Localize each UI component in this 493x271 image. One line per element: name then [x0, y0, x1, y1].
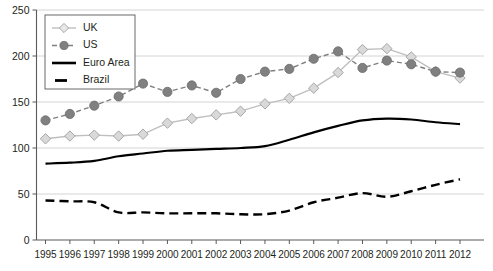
x-tick-label: 2009: [376, 249, 399, 260]
data-point-marker: [333, 47, 342, 56]
data-point-marker: [309, 83, 319, 93]
y-tick-label: 250: [12, 4, 30, 16]
data-point-marker: [65, 109, 74, 118]
data-point-marker: [431, 67, 440, 76]
data-point-marker: [163, 87, 172, 96]
chart-legend: UKUSEuro AreaBrazil: [45, 15, 135, 89]
x-tick-label: 2010: [400, 249, 423, 260]
series-euro-area: [46, 119, 461, 164]
data-point-marker: [260, 67, 269, 76]
line-chart: 050100150200250 199519961997199819992000…: [0, 0, 493, 271]
y-tick-label: 100: [12, 142, 30, 154]
legend-marker: [60, 41, 68, 49]
data-point-marker: [41, 116, 50, 125]
y-tick-label: 200: [12, 50, 30, 62]
data-point-marker: [113, 131, 123, 141]
data-point-marker: [65, 131, 75, 141]
data-point-marker: [285, 64, 294, 73]
x-tick-label: 2007: [327, 249, 350, 260]
data-point-marker: [187, 113, 197, 123]
x-tick-label: 2001: [181, 249, 204, 260]
data-point-marker: [89, 130, 99, 140]
y-tick-label: 0: [24, 234, 30, 246]
x-tick-label: 2011: [425, 249, 447, 260]
x-tick-label: 2000: [156, 249, 179, 260]
x-axis: 1995199619971998199920002001200220032004…: [34, 240, 484, 260]
x-tick-label: 1998: [108, 249, 131, 260]
data-point-marker: [211, 110, 221, 120]
legend-label: Brazil: [83, 73, 109, 85]
data-point-marker: [235, 106, 245, 116]
x-tick-label: 2012: [449, 249, 472, 260]
x-tick-label: 2005: [278, 249, 301, 260]
data-point-marker: [382, 43, 392, 53]
series-line: [46, 179, 461, 214]
data-point-marker: [162, 118, 172, 128]
x-tick-label: 2003: [229, 249, 252, 260]
data-point-marker: [187, 81, 196, 90]
x-tick-label: 2002: [205, 249, 228, 260]
data-point-marker: [407, 60, 416, 69]
legend-label: Euro Area: [83, 56, 130, 68]
data-point-marker: [455, 68, 464, 77]
x-tick-label: 2006: [303, 249, 326, 260]
data-point-marker: [358, 63, 367, 72]
data-point-marker: [236, 74, 245, 83]
chart-container: 050100150200250 199519961997199819992000…: [0, 0, 493, 271]
series-line: [46, 119, 461, 164]
x-tick-label: 1995: [34, 249, 57, 260]
y-axis: 050100150200250: [12, 4, 37, 246]
data-point-marker: [309, 54, 318, 63]
x-tick-label: 1996: [59, 249, 82, 260]
data-point-marker: [382, 56, 391, 65]
legend-label: US: [83, 38, 98, 50]
data-point-marker: [138, 129, 148, 139]
data-point-marker: [138, 79, 147, 88]
series-brazil: [46, 179, 461, 214]
data-point-marker: [114, 92, 123, 101]
x-tick-label: 2008: [351, 249, 374, 260]
y-tick-label: 150: [12, 96, 30, 108]
x-tick-label: 1997: [83, 249, 106, 260]
legend-label: UK: [83, 21, 98, 33]
data-point-marker: [40, 134, 50, 144]
x-tick-label: 2004: [254, 249, 277, 260]
y-tick-label: 50: [18, 188, 30, 200]
data-point-marker: [90, 101, 99, 110]
x-tick-label: 1999: [132, 249, 155, 260]
data-point-marker: [212, 88, 221, 97]
data-point-marker: [260, 99, 270, 109]
